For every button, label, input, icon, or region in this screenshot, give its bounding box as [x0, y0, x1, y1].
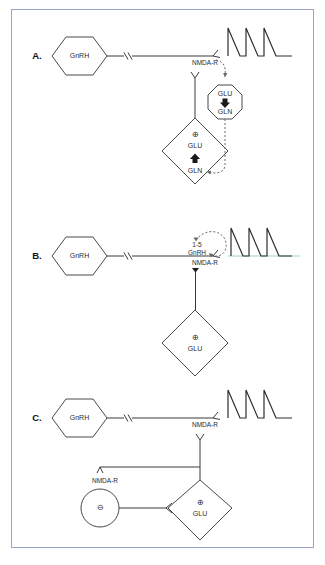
panel-a-diamond-up-arrow-icon: [190, 154, 200, 164]
panel-a-diamond-glu: GLU: [188, 142, 202, 149]
panel-b-nmda-r-label: NMDA-R: [192, 259, 218, 266]
panel-a-nmda-receptor-icon: [213, 50, 220, 58]
panel-a-gnrh-label: GnRH: [70, 52, 89, 59]
panel-a-pulse-train: [228, 28, 292, 56]
panel-b-pulse-train: [231, 228, 292, 256]
panel-c-nmda-r-label-secondary: NMDA-R: [92, 477, 118, 484]
panel-b-loop-label-line1: 1-5: [192, 241, 202, 248]
panel-a-octagon-gln: GLN: [218, 108, 232, 115]
panel-b-letter: B.: [32, 250, 42, 261]
panel-b-diamond-glu: GLU: [188, 345, 202, 352]
panel-a-letter: A.: [32, 50, 42, 61]
panel-a-neuron-diamond: [162, 118, 228, 184]
diagram-canvas: A. GnRH NMDA-R GLU GLN ⊕ GLU: [0, 0, 325, 565]
panel-b-diamond-plus-icon: ⊕: [192, 333, 199, 342]
panel-c-dendrite-receptor-icon: [196, 434, 204, 440]
panel-c-axon-break: [124, 415, 132, 422]
panel-c-diamond-glu: GLU: [193, 510, 207, 517]
panel-c-pulse-train: [228, 390, 292, 418]
panel-a-octagon-glu: GLU: [218, 90, 232, 97]
figure-root: A. GnRH NMDA-R GLU GLN ⊕ GLU: [0, 0, 325, 565]
panel-b-loop-label-line2: GnRH: [188, 249, 206, 256]
panel-c-interneuron-minus-icon: ⊖: [97, 503, 104, 512]
panel-c-letter: C.: [32, 412, 42, 423]
panel-a: A. GnRH NMDA-R GLU GLN ⊕ GLU: [32, 28, 292, 184]
panel-a-dendrite-receptor-icon: [191, 72, 199, 78]
panel-a-diamond-gln: GLN: [188, 167, 202, 174]
panel-c-nmda-r-label: NMDA-R: [192, 421, 218, 428]
panel-c-diamond-plus-icon: ⊕: [197, 498, 204, 507]
panel-c: C. GnRH NMDA-R NMDA-R ⊖ ⊕: [32, 390, 292, 540]
panel-a-axon-break: [124, 53, 132, 60]
panel-c-nmda-receptor-icon: [213, 412, 220, 420]
panel-b-glu-diamond: [162, 310, 228, 376]
panel-b-axon-break: [124, 253, 132, 260]
panel-b-afferent-arrowhead-icon: [192, 268, 199, 273]
panel-a-octagon-down-arrow-icon: [220, 99, 230, 109]
panel-c-gnrh-label: GnRH: [70, 414, 89, 421]
panel-c-nmda-receptor-secondary-icon: [97, 467, 103, 473]
panel-b-gnrh-label: GnRH: [70, 252, 89, 259]
panel-b: B. GnRH NMDA-R 1-5 GnRH ⊕ GLU: [32, 228, 300, 376]
panel-a-nmda-r-label: NMDA-R: [192, 59, 218, 66]
panel-a-diamond-plus-icon: ⊕: [192, 130, 199, 139]
